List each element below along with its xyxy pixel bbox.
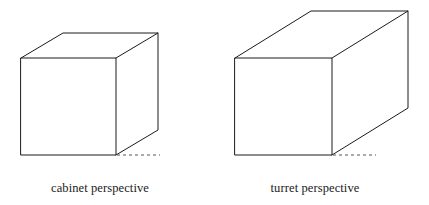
- cabinet-right-face-edges: [116, 33, 158, 155]
- turret-right-face-edges: [332, 11, 408, 155]
- cabinet-top-face-edges: [21, 33, 158, 58]
- turret-box-drawing: [235, 11, 408, 155]
- cabinet-box-drawing: [21, 33, 158, 155]
- caption-cabinet-perspective: cabinet perspective: [0, 181, 200, 196]
- turret-top-face-edges: [235, 11, 408, 58]
- cabinet-front-face-edges: [21, 58, 116, 155]
- projection-comparison-figure: [0, 0, 429, 205]
- turret-front-face-edges: [235, 58, 332, 155]
- caption-turret-perspective: turret perspective: [215, 181, 415, 196]
- figure-page: cabinet perspective turret perspective: [0, 0, 429, 205]
